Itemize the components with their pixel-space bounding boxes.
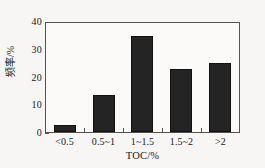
bars-layer <box>46 23 239 132</box>
plot-area <box>45 22 240 133</box>
bar-slot-4 <box>162 23 201 132</box>
y-tick-label-0: 0 <box>2 128 42 138</box>
x-tick-label-lt-0.5: <0.5 <box>45 136 84 147</box>
y-tick-mark-0 <box>45 133 49 134</box>
y-axis-title: 频率/% <box>5 34 16 90</box>
bar-slot-1 <box>46 23 85 132</box>
bar-slot-2 <box>85 23 124 132</box>
x-tick-label-0.5-1: 0.5~1 <box>84 136 123 147</box>
bar-lt-0.5 <box>54 125 76 132</box>
bar-slot-3 <box>123 23 162 132</box>
bar-chart-figure: 0 10 20 30 40 频率/% <box>0 0 265 168</box>
bar-1-1.5 <box>131 36 153 132</box>
x-tick-mark-1 <box>84 128 85 133</box>
bar-1.5-2 <box>170 69 192 132</box>
y-tick-label-40: 40 <box>2 17 42 27</box>
bar-0.5-1 <box>93 95 115 132</box>
bar-slot-5 <box>200 23 239 132</box>
x-tick-label-1.5-2: 1.5~2 <box>162 136 201 147</box>
bar-gt-2 <box>209 63 231 132</box>
y-tick-label-10: 10 <box>2 100 42 110</box>
x-tick-label-1-1.5: 1~1.5 <box>123 136 162 147</box>
x-axis-title: TOC/% <box>45 150 240 162</box>
x-tick-label-gt-2: >2 <box>201 136 240 147</box>
x-tick-mark-3 <box>162 128 163 133</box>
x-tick-mark-4 <box>201 128 202 133</box>
x-tick-mark-2 <box>123 128 124 133</box>
x-axis-tick-labels: <0.5 0.5~1 1~1.5 1.5~2 >2 <box>45 136 240 147</box>
